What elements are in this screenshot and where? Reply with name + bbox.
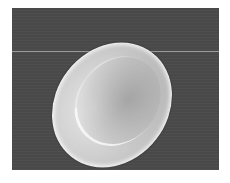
micrograph-panel: red blood cell (scanning electron microg… (12, 8, 219, 170)
red-blood-cell (27, 19, 197, 170)
cell-biconcave-dimple (57, 39, 179, 163)
